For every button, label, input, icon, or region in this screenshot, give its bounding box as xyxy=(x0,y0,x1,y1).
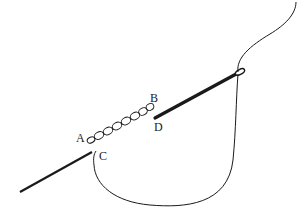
thread-tail xyxy=(238,2,296,72)
label-b: B xyxy=(150,92,158,104)
thread-loop xyxy=(94,74,238,206)
label-a: A xyxy=(76,132,85,144)
diagram-drawing xyxy=(0,0,300,222)
stitch-diagram: A B C D xyxy=(0,0,300,222)
stitch-line-c xyxy=(20,152,92,192)
needle xyxy=(155,73,238,118)
label-c: C xyxy=(99,150,107,162)
label-d: D xyxy=(154,121,163,133)
chain-stitches xyxy=(86,102,155,144)
needle-eye xyxy=(234,67,245,76)
